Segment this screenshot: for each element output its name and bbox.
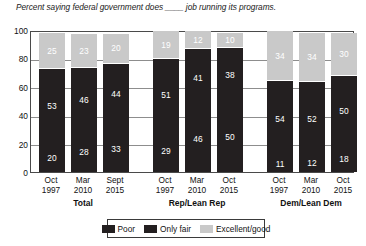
x-tick-label-2-2: Oct2015 xyxy=(328,176,358,195)
legend-item-poor[interactable]: Poor xyxy=(102,224,136,234)
y-tick-label-0: 0 xyxy=(2,169,28,177)
bar-segment-poor: 20 xyxy=(39,144,65,172)
bar-segment-excellent_good: 23 xyxy=(71,34,97,67)
bar-value-label: 50 xyxy=(331,107,357,116)
x-tick-year: 1997 xyxy=(264,186,294,196)
bar-segment-poor: 11 xyxy=(267,156,293,172)
bar-value-label: 50 xyxy=(217,132,243,141)
bar-value-label: 12 xyxy=(185,35,211,44)
bar-value-label: 34 xyxy=(299,53,325,62)
y-tick-label-20: 20 xyxy=(2,141,28,149)
bar-segment-only_fair: 53 xyxy=(39,68,65,143)
bar-value-label: 23 xyxy=(71,46,97,55)
x-tick-label-1-1: Mar2010 xyxy=(182,176,212,195)
bar-segment-excellent_good: 19 xyxy=(153,31,179,58)
bar-value-label: 11 xyxy=(267,160,293,169)
bar-1-0[interactable]: 295119 xyxy=(153,30,179,172)
bar-value-label: 25 xyxy=(39,46,65,55)
x-tick-label-2-1: Mar2010 xyxy=(296,176,326,195)
bar-value-label: 54 xyxy=(267,114,293,123)
bar-segment-excellent_good: 10 xyxy=(217,33,243,47)
bar-value-label: 20 xyxy=(39,153,65,162)
bar-segment-only_fair: 41 xyxy=(185,48,211,106)
bar-value-label: 28 xyxy=(71,148,97,157)
bar-segment-excellent_good: 30 xyxy=(331,33,357,76)
bar-value-label: 53 xyxy=(39,102,65,111)
bar-2-0[interactable]: 115434 xyxy=(267,30,293,172)
bar-segment-only_fair: 54 xyxy=(267,80,293,157)
x-tick-label-2-0: Oct1997 xyxy=(264,176,294,195)
group-label-0: Total xyxy=(23,198,143,208)
bar-value-label: 18 xyxy=(331,155,357,164)
bar-segment-poor: 28 xyxy=(71,132,97,172)
bar-segment-excellent_good: 20 xyxy=(103,34,129,62)
bar-value-label: 10 xyxy=(217,35,243,44)
bar-0-0[interactable]: 205325 xyxy=(39,30,65,172)
plot-area: 2053252846233344202951194641125038101154… xyxy=(30,31,354,173)
bar-value-label: 33 xyxy=(103,144,129,153)
legend-label-poor: Poor xyxy=(118,224,136,234)
x-tick-year: 1997 xyxy=(36,186,66,196)
y-tick-label-60: 60 xyxy=(2,84,28,92)
legend-item-excellent-good[interactable]: Excellent/good xyxy=(200,224,270,234)
x-tick-year: 2010 xyxy=(68,186,98,196)
bar-2-1[interactable]: 125234 xyxy=(299,30,325,172)
bar-segment-excellent_good: 25 xyxy=(39,33,65,69)
group-label-1: Rep/Lean Rep xyxy=(137,198,257,208)
x-tick-year: 1997 xyxy=(150,186,180,196)
bar-segment-only_fair: 38 xyxy=(217,47,243,101)
bar-0-2[interactable]: 334420 xyxy=(103,30,129,172)
x-tick-label-1-2: Oct2015 xyxy=(214,176,244,195)
legend-item-only-fair[interactable]: Only fair xyxy=(144,224,191,234)
bar-value-label: 19 xyxy=(153,40,179,49)
bar-segment-only_fair: 44 xyxy=(103,63,129,125)
bar-value-label: 41 xyxy=(185,74,211,83)
bar-1-2[interactable]: 503810 xyxy=(217,30,243,172)
bar-value-label: 44 xyxy=(103,90,129,99)
chart-legend: Poor Only fair Excellent/good xyxy=(107,219,265,238)
bar-value-label: 52 xyxy=(299,114,325,123)
legend-label-only-fair: Only fair xyxy=(160,224,191,234)
bar-segment-only_fair: 46 xyxy=(71,67,97,132)
y-tick-label-40: 40 xyxy=(2,112,28,120)
y-tick-label-100: 100 xyxy=(2,27,28,35)
y-axis: 100806040200 xyxy=(0,31,28,173)
x-tick-year: 2015 xyxy=(214,186,244,196)
bar-value-label: 46 xyxy=(71,96,97,105)
bar-value-label: 30 xyxy=(331,50,357,59)
bar-value-label: 12 xyxy=(299,159,325,168)
bar-2-2[interactable]: 185030 xyxy=(331,30,357,172)
bar-segment-excellent_good: 34 xyxy=(267,31,293,79)
bar-value-label: 34 xyxy=(267,51,293,60)
legend-label-excellent-good: Excellent/good xyxy=(216,224,270,234)
bar-segment-only_fair: 50 xyxy=(331,75,357,146)
x-tick-year: 2010 xyxy=(296,186,326,196)
bar-segment-only_fair: 52 xyxy=(299,81,325,155)
x-tick-label-1-0: Oct1997 xyxy=(150,176,180,195)
group-label-2: Dem/Lean Dem xyxy=(251,198,366,208)
bar-segment-poor: 12 xyxy=(299,155,325,172)
bar-segment-poor: 18 xyxy=(331,146,357,172)
x-tick-year: 2015 xyxy=(328,186,358,196)
legend-swatch-poor xyxy=(102,225,115,233)
bar-value-label: 29 xyxy=(153,147,179,156)
bar-segment-only_fair: 51 xyxy=(153,58,179,130)
bar-segment-poor: 33 xyxy=(103,125,129,172)
bar-segment-poor: 29 xyxy=(153,131,179,172)
chart-title: Percent saying federal government does _… xyxy=(16,2,356,12)
bar-segment-excellent_good: 34 xyxy=(299,33,325,81)
bar-value-label: 38 xyxy=(217,70,243,79)
bar-segment-poor: 46 xyxy=(185,107,211,172)
bar-1-1[interactable]: 464112 xyxy=(185,30,211,172)
x-tick-label-0-1: Mar2010 xyxy=(68,176,98,195)
legend-swatch-excellent-good xyxy=(200,225,213,233)
y-tick-label-80: 80 xyxy=(2,55,28,63)
bar-segment-excellent_good: 12 xyxy=(185,31,211,48)
bar-value-label: 46 xyxy=(185,135,211,144)
x-tick-label-0-2: Sept2015 xyxy=(100,176,130,195)
bar-value-label: 51 xyxy=(153,91,179,100)
x-tick-year: 2015 xyxy=(100,186,130,196)
x-tick-label-0-0: Oct1997 xyxy=(36,176,66,195)
bar-0-1[interactable]: 284623 xyxy=(71,30,97,172)
legend-swatch-only-fair xyxy=(144,225,157,233)
